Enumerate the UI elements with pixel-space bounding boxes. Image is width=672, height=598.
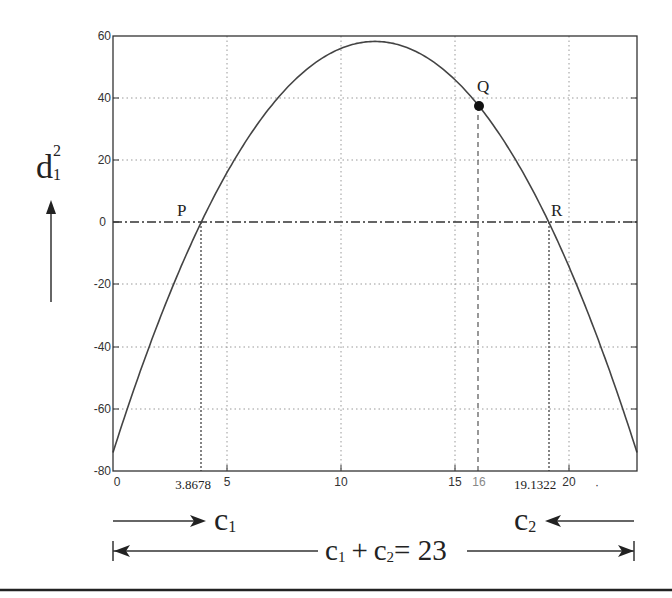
y-tick-0: 0 xyxy=(99,215,106,229)
y-tick-m20: -20 xyxy=(94,277,112,291)
label-p: P xyxy=(177,201,186,220)
x-mark-3-8678: 3.8678 xyxy=(175,477,211,492)
plot-frame xyxy=(113,36,637,471)
y-tick-20: 20 xyxy=(98,153,112,167)
y-tick-m60: -60 xyxy=(94,402,112,416)
x-mark-19-1322: 19.1322 xyxy=(514,477,556,492)
x-tick-15: 15 xyxy=(448,475,462,489)
x-mark-16: 16 xyxy=(472,475,486,489)
sum-equation: c1+c2= 23 xyxy=(325,534,447,566)
x-tick-0: 0 xyxy=(114,475,121,489)
label-r: R xyxy=(551,201,563,220)
y-tick-m40: -40 xyxy=(94,340,112,354)
x-tick-10: 10 xyxy=(334,475,348,489)
y-tick-60: 60 xyxy=(98,29,112,43)
y-axis-label: d12 xyxy=(36,142,61,185)
c1-right-arrow-icon xyxy=(113,515,206,527)
y-tick-m80: -80 xyxy=(94,464,112,478)
c2-left-arrow-icon xyxy=(545,515,634,527)
x-tick-20: 20 xyxy=(562,475,576,489)
point-q-marker xyxy=(474,101,484,111)
y-tick-40: 40 xyxy=(98,91,112,105)
c2-label: c2 xyxy=(514,501,536,537)
up-arrow-icon xyxy=(46,200,56,302)
label-q: Q xyxy=(477,77,489,96)
curve-d1-squared xyxy=(113,41,637,452)
x-tick-5: 5 xyxy=(224,475,231,489)
grid-lines xyxy=(113,36,637,471)
x-dot: · xyxy=(595,478,599,492)
c1-label: c1 xyxy=(214,501,236,537)
chart-figure: 60 40 20 0 -20 -40 -60 -80 0 5 10 15 20 … xyxy=(0,0,672,598)
